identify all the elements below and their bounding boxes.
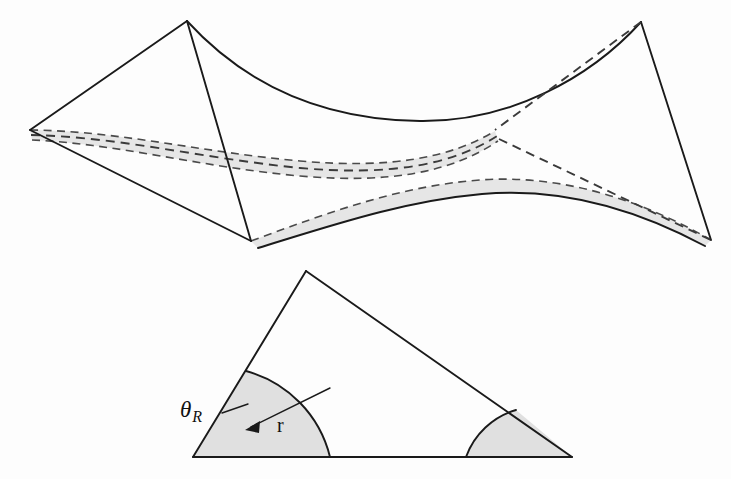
edge-topleft-to-left	[30, 21, 187, 130]
geometry-figure-canvas: θR r	[0, 0, 731, 479]
saddle-top-edge	[187, 21, 641, 121]
edge-topleft-to-bottomfront	[187, 21, 251, 241]
hidden-edge-topright-to-back	[495, 22, 641, 130]
lower-panel-triangle: θR r	[180, 271, 572, 457]
radius-label: r	[277, 414, 284, 436]
theta-subscript: R	[191, 408, 202, 425]
theta-symbol: θ	[180, 397, 191, 422]
shaded-corner-right	[466, 410, 572, 457]
edge-topright-to-bottomright	[641, 22, 711, 240]
triangle-side-right	[306, 271, 572, 457]
theta-angle-label: θR	[180, 397, 202, 425]
shaded-band-front	[251, 179, 711, 248]
figure-root: θR r	[0, 0, 731, 479]
upper-panel-saddle-surface	[30, 21, 711, 248]
